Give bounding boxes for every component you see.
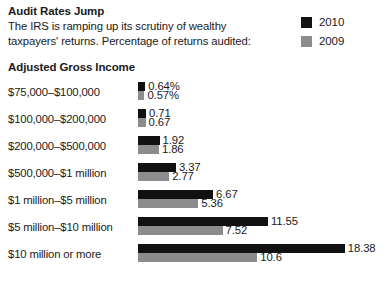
row-category-label: $5 million–$10 million: [8, 221, 113, 234]
audit-rates-chart: Audit Rates Jump The IRS is ramping up i…: [0, 0, 389, 301]
chart-row: $500,000–$1 million3.372.77: [0, 160, 389, 187]
legend-item-2009: 2009: [301, 33, 344, 49]
chart-subtitle-line-1: The IRS is ramping up its scrutiny of we…: [8, 19, 273, 34]
bar-2010: [138, 136, 160, 145]
bar-2009: [138, 253, 257, 262]
row-category-label: $75,000–$100,000: [8, 86, 100, 99]
bar-value-label: 11.55: [268, 215, 298, 228]
bar-value-label: 5.36: [198, 197, 223, 210]
chart-subtitle-line-2: taxpayers' returns. Percentage of return…: [8, 34, 273, 49]
bar-value-label: 7.52: [223, 224, 248, 237]
bar-2009: [138, 226, 223, 235]
legend-item-2010: 2010: [301, 14, 344, 30]
legend-label: 2010: [319, 16, 344, 28]
bar-value-label: 10.6: [257, 251, 282, 264]
row-category-label: $500,000–$1 million: [8, 167, 106, 180]
chart-legend: 20102009: [301, 14, 344, 52]
chart-subtitle: The IRS is ramping up its scrutiny of we…: [8, 19, 273, 48]
chart-rows: $75,000–$100,0000.64%0.57%$100,000–$200,…: [0, 79, 389, 268]
bar-value-label: 0.57%: [144, 89, 179, 102]
chart-row: $100,000–$200,0000.710.67: [0, 106, 389, 133]
bar-2010: [138, 244, 345, 253]
bar-value-label: 0.67: [146, 116, 171, 129]
axis-group-title: Adjusted Gross Income: [0, 61, 389, 73]
bar-2010: [138, 217, 268, 226]
chart-row: $1 million–$5 million6.675.36: [0, 187, 389, 214]
row-category-label: $200,000–$500,000: [8, 140, 106, 153]
chart-row: $200,000–$500,0001.921.86: [0, 133, 389, 160]
legend-label: 2009: [319, 35, 344, 47]
legend-swatch-icon-2010: [301, 17, 312, 28]
row-category-label: $1 million–$5 million: [8, 194, 107, 207]
chart-row: $5 million–$10 million11.557.52: [0, 214, 389, 241]
row-category-label: $100,000–$200,000: [8, 113, 106, 126]
row-category-label: $10 million or more: [8, 248, 101, 261]
bar-value-label: 2.77: [169, 170, 194, 183]
chart-row: $10 million or more18.3810.6: [0, 241, 389, 268]
bar-value-label: 1.86: [159, 143, 184, 156]
legend-swatch-icon-2009: [301, 36, 312, 47]
bar-value-label: 18.38: [345, 242, 376, 255]
chart-header: Audit Rates Jump The IRS is ramping up i…: [0, 4, 389, 48]
bar-2009: [138, 145, 159, 154]
bar-2009: [138, 199, 198, 208]
bar-2009: [138, 118, 146, 127]
bar-2009: [138, 172, 169, 181]
chart-row: $75,000–$100,0000.64%0.57%: [0, 79, 389, 106]
